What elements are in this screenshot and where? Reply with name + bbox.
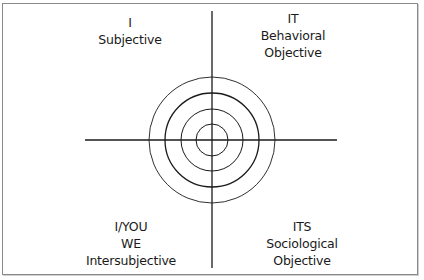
quadrant-descriptor: Objective [266, 252, 338, 269]
quadrant-pronoun: WE [86, 235, 176, 252]
quadrant-axes-and-circles [0, 0, 424, 280]
quadrant-descriptor: Sociological [266, 235, 338, 252]
quadrant-upper-right-label: IT Behavioral Objective [261, 10, 326, 61]
quadrant-pronoun: I [98, 14, 161, 31]
quadrant-pronoun: IT [261, 10, 326, 27]
quadrant-pronoun: ITS [266, 218, 338, 235]
quadrant-descriptor: Intersubjective [86, 252, 176, 269]
quadrant-lower-right-label: ITS Sociological Objective [266, 218, 338, 269]
four-quadrant-diagram: I Subjective IT Behavioral Objective I/Y… [0, 0, 424, 280]
quadrant-pronoun: I/YOU [86, 218, 176, 235]
quadrant-upper-left-label: I Subjective [98, 14, 161, 48]
quadrant-lower-left-label: I/YOU WE Intersubjective [86, 218, 176, 269]
quadrant-descriptor: Behavioral [261, 27, 326, 44]
quadrant-descriptor: Objective [261, 44, 326, 61]
quadrant-descriptor: Subjective [98, 31, 161, 48]
